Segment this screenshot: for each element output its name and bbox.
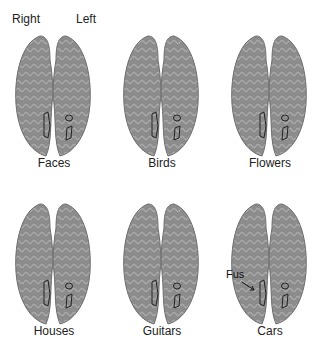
brain-ventral-view-icon	[108, 14, 216, 164]
panel-caption: Flowers	[216, 156, 324, 170]
panel-guitars: Guitars	[108, 182, 216, 342]
brain-ventral-view-icon	[216, 14, 324, 164]
brain-ventral-view-icon	[0, 182, 108, 332]
brain-ventral-view-icon	[216, 182, 324, 332]
panel-caption: Faces	[0, 156, 108, 170]
panel-caption: Houses	[0, 324, 108, 338]
panel-caption: Guitars	[108, 324, 216, 338]
panel-birds: Birds	[108, 14, 216, 184]
brain-ventral-view-icon	[108, 182, 216, 332]
panel-flowers: Flowers	[216, 14, 324, 184]
panel-cars: Fus Cars	[216, 182, 324, 342]
panel-caption: Birds	[108, 156, 216, 170]
panel-faces: Faces	[0, 14, 108, 184]
panel-caption: Cars	[216, 324, 324, 338]
fusiform-annotation: Fus	[226, 268, 244, 280]
panel-houses: Houses	[0, 182, 108, 342]
brain-ventral-view-icon	[0, 14, 108, 164]
